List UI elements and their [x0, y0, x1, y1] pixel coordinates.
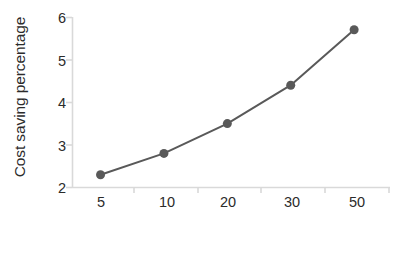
data-point: [96, 170, 105, 179]
data-point: [159, 149, 168, 158]
data-point: [286, 81, 295, 90]
data-point: [350, 25, 359, 34]
chart-container: Cost saving percentage 6 5 4 3 2 5 10 20…: [0, 0, 404, 255]
plot-area: [0, 0, 404, 255]
y-axis-ticks: [66, 18, 72, 188]
data-series-line: [101, 30, 355, 175]
data-series-markers: [96, 25, 359, 179]
data-point: [223, 119, 232, 128]
